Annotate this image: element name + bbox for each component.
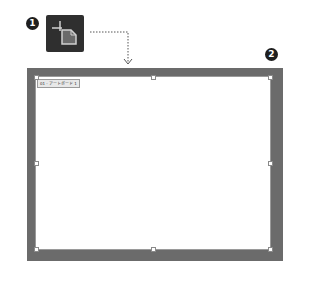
artboard[interactable] [36, 77, 270, 249]
handle-middle-right[interactable] [268, 161, 273, 166]
handle-bottom-left[interactable] [34, 247, 39, 252]
handle-middle-left[interactable] [34, 161, 39, 166]
handle-bottom-center[interactable] [151, 247, 156, 252]
step-2-badge: 2 [265, 48, 278, 61]
handle-bottom-right[interactable] [268, 247, 273, 252]
artboard-name-label[interactable]: 01 - アートボード 1 [37, 79, 80, 88]
handle-top-left[interactable] [34, 75, 39, 80]
handle-top-center[interactable] [151, 75, 156, 80]
handle-top-right[interactable] [268, 75, 273, 80]
